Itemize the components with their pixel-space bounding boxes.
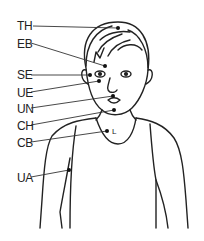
label-un: UN bbox=[17, 103, 34, 115]
label-th: TH bbox=[17, 20, 32, 32]
label-ue: UE bbox=[17, 87, 33, 99]
label-se: SE bbox=[17, 69, 32, 81]
collarbone-mark: L bbox=[112, 126, 116, 138]
label-cb: CB bbox=[17, 137, 33, 149]
label-ua: UA bbox=[17, 172, 33, 184]
label-eb: EB bbox=[17, 38, 32, 50]
label-ch: CH bbox=[17, 120, 34, 132]
